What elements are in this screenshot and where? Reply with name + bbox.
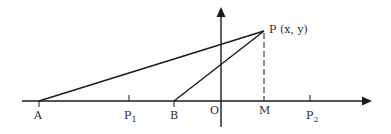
label-B: B [170, 109, 178, 122]
geometry-diagram: A P1 B O M P2 P (x, y) [0, 0, 391, 134]
y-axis-arrow-icon [217, 7, 226, 17]
label-M: M [259, 104, 270, 117]
label-P-xy: P (x, y) [269, 23, 308, 36]
label-P1: P1 [124, 109, 137, 124]
x-axis-arrow-icon [362, 97, 372, 106]
label-P2: P2 [306, 109, 319, 124]
label-A: A [33, 109, 43, 122]
segment-BP [174, 31, 264, 101]
label-origin: O [210, 104, 219, 117]
segment-AP [39, 31, 264, 101]
